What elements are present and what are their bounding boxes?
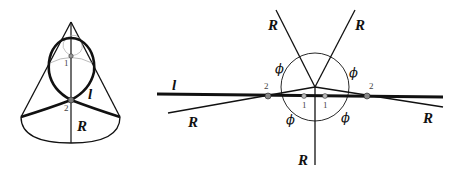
label-phi-lower-left: ϕ (286, 112, 295, 127)
point-2-left-label: 2 (264, 81, 269, 91)
label-phi-upper-left: ϕ (275, 61, 284, 76)
label-phi-upper-right: ϕ (349, 65, 358, 80)
label-R-upper-right: R (354, 17, 365, 33)
cone-R-label: R (76, 118, 87, 134)
diagram-canvas: 1 2 l R 2 1 1 2 R R R R R l ϕ ϕ ϕ (0, 0, 461, 174)
cone-point-2-label: 2 (64, 103, 69, 113)
cone-point-1-label: 1 (64, 58, 69, 68)
label-l: l (172, 77, 177, 93)
point-1-right-marker (323, 94, 328, 99)
unfolded-figure: 2 1 1 2 R R R R R l ϕ ϕ ϕ ϕ (157, 10, 443, 168)
label-R-lower-left: R (187, 114, 198, 130)
label-phi-lower-right: ϕ (341, 110, 350, 125)
point-1-left-marker (302, 94, 307, 99)
point-2-left-marker (265, 93, 271, 99)
point-2-right-label: 2 (369, 81, 374, 91)
ray-lower-left (168, 87, 315, 113)
label-R-bottom: R (297, 152, 308, 168)
label-R-upper-left: R (267, 17, 278, 33)
cone-figure: 1 2 l R (21, 22, 120, 143)
point-2-right-marker (364, 93, 370, 99)
cone-point-2-marker (68, 97, 74, 103)
point-1-right-label: 1 (323, 100, 328, 110)
cone-point-1-marker (69, 54, 73, 58)
geodesic-line-l (157, 94, 443, 97)
label-R-lower-right: R (422, 110, 433, 126)
point-1-left-label: 1 (302, 100, 307, 110)
cone-l-label: l (88, 86, 93, 102)
